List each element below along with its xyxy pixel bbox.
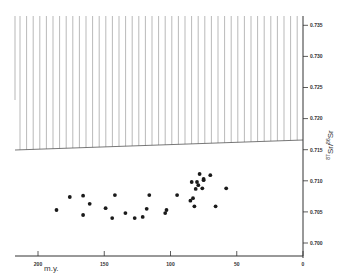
scatter-chart: 0.7350.7300.7250.7200.7150.7100.7050.700… xyxy=(0,0,356,277)
data-point xyxy=(81,194,85,198)
data-point xyxy=(175,193,179,197)
data-point xyxy=(165,208,169,212)
y-tick-label: 0.720 xyxy=(310,115,323,121)
data-point xyxy=(147,193,151,197)
data-point xyxy=(133,216,137,220)
data-point xyxy=(104,206,108,210)
data-points xyxy=(55,172,229,220)
data-point xyxy=(141,215,145,219)
data-point xyxy=(88,202,92,206)
hatched-region xyxy=(20,16,297,150)
data-point xyxy=(198,172,202,176)
data-point xyxy=(190,180,194,184)
y-label-base2: Sr xyxy=(326,130,335,138)
data-point xyxy=(200,186,204,190)
data-point xyxy=(193,204,197,208)
data-point xyxy=(55,208,59,212)
x-ticks: 200150100500 xyxy=(34,251,305,267)
data-point xyxy=(224,186,228,190)
x-tick-label: 150 xyxy=(100,261,109,267)
y-tick-label: 0.725 xyxy=(310,84,323,90)
data-point xyxy=(202,177,206,181)
y-tick-label: 0.700 xyxy=(310,240,323,246)
data-point xyxy=(68,195,72,199)
y-ticks: 0.7350.7300.7250.7200.7150.7100.7050.700 xyxy=(303,22,323,246)
data-point xyxy=(124,211,128,215)
y-axis-title: 87Sr/86Sr xyxy=(325,130,335,160)
x-axis-unit: m.y. xyxy=(44,264,59,273)
hatch-lower-boundary xyxy=(15,140,303,150)
data-point xyxy=(110,216,114,220)
x-tick-label: 50 xyxy=(234,261,240,267)
data-point xyxy=(208,173,212,177)
data-point xyxy=(196,183,200,187)
x-tick-label: 100 xyxy=(166,261,175,267)
svg-text:87Sr/86Sr: 87Sr/86Sr xyxy=(325,130,335,160)
data-point xyxy=(113,193,117,197)
x-tick-label: 0 xyxy=(302,261,305,267)
y-tick-label: 0.710 xyxy=(310,178,323,184)
data-point xyxy=(145,207,149,211)
data-point xyxy=(81,213,85,217)
x-tick-label: 200 xyxy=(34,261,43,267)
y-tick-label: 0.715 xyxy=(310,147,323,153)
data-point xyxy=(214,204,218,208)
data-point xyxy=(194,187,198,191)
y-tick-label: 0.730 xyxy=(310,53,323,59)
y-tick-label: 0.735 xyxy=(310,22,323,28)
data-point xyxy=(191,196,195,200)
y-tick-label: 0.705 xyxy=(310,209,323,215)
